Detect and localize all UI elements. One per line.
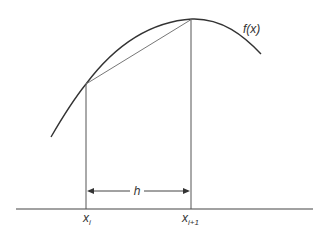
fx-label: f(x) <box>243 22 260 36</box>
xi1-label: xi+1 <box>181 211 199 227</box>
arrowhead-left-icon <box>87 188 94 194</box>
chord-line <box>86 19 192 84</box>
arrowhead-right-icon <box>183 188 190 194</box>
xi-sub: i <box>89 218 91 227</box>
xi1-sub: i+1 <box>188 218 199 227</box>
curve-fx <box>51 19 261 137</box>
xi-label: xi <box>82 211 91 227</box>
trapezoid-diagram: h f(x) xi xi+1 <box>0 0 313 234</box>
h-label: h <box>134 184 141 198</box>
